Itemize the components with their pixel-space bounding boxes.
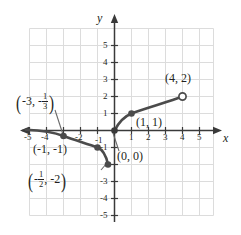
y-tick-neg1: -1 (100, 143, 108, 152)
x-axis-arrow-right (213, 127, 222, 134)
paren-close: ) (49, 93, 54, 114)
y-axis-label: y (97, 12, 102, 24)
paren-close: ) (61, 171, 66, 192)
x-tick-5: 5 (197, 133, 202, 142)
leader-lines (55, 110, 119, 170)
y-tick-5: 5 (103, 41, 108, 50)
axis-arrowheads (20, 14, 222, 134)
y-tick-neg4: -4 (100, 194, 108, 203)
y-tick-4: 4 (103, 58, 108, 67)
y-tick-2: 2 (103, 92, 108, 101)
y-axis-arrow-up (111, 14, 118, 23)
annotation-neg1-neg1: (-1, -1) (33, 143, 67, 155)
y-tick-neg5: -5 (100, 211, 108, 220)
point-0-0 (111, 127, 118, 134)
annotation-0-0: (0, 0) (117, 150, 143, 162)
point-1-1 (128, 110, 135, 117)
graph-canvas (0, 0, 241, 235)
half-rest: , -2 (44, 172, 60, 186)
x-tick-neg2: -2 (75, 133, 83, 142)
x-tick-3: 3 (163, 133, 168, 142)
coordinate-graph-figure: y x -5 -4 -2 -1 1 2 3 4 5 5 4 3 2 1 -1 -… (0, 0, 241, 235)
x-tick-1: 1 (129, 133, 134, 142)
annotation-neg3-neg-one-third: (-3, -13) (15, 92, 55, 114)
y-tick-1: 1 (103, 109, 108, 118)
x-tick-neg4: -4 (41, 133, 49, 142)
neg3-x-part: -3, (22, 94, 35, 108)
y-tick-3: 3 (103, 75, 108, 84)
annotation-neg-half-neg2: (-12, -2) (27, 170, 67, 192)
point-4-2-open (179, 93, 186, 100)
fraction-denominator: 3 (42, 102, 48, 111)
paren-open: ( (28, 171, 33, 192)
paren-open: ( (16, 93, 21, 114)
point-neghalf-neg2 (105, 161, 112, 168)
fraction-one-third: 13 (42, 92, 48, 111)
point-neg3-neg-third (60, 133, 67, 140)
x-tick-4: 4 (180, 133, 185, 142)
x-tick-neg5: -5 (24, 133, 32, 142)
annotation-4-2: (4, 2) (165, 72, 191, 84)
annotation-1-1: (1, 1) (136, 116, 162, 128)
x-axis-label: x (223, 132, 228, 144)
x-tick-2: 2 (146, 133, 151, 142)
y-tick-neg3: -3 (100, 177, 108, 186)
